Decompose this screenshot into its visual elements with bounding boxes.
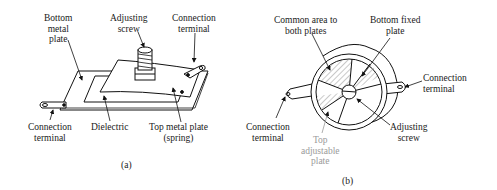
label-connection-terminal-right-b: Connection terminal [423,73,467,94]
label-line: plate [44,34,73,45]
label-adjusting-screw-a: Adjusting screw [110,13,147,34]
label-common-area: Common area to both plates [274,15,337,36]
label-line: terminal [423,84,467,95]
label-line: Adjusting [110,13,147,24]
label-line: metal [44,24,73,35]
label-line: Connection [172,13,216,24]
label-top-metal-plate: Top metal plate (spring) [149,122,208,143]
label-line: adjustable [301,146,340,157]
label-adjusting-screw-b: Adjusting screw [390,122,427,143]
label-dielectric: Dielectric [91,122,128,133]
label-line: screw [390,133,427,144]
label-line: (spring) [149,133,208,144]
label-line: Top metal plate [149,122,208,133]
label-line: Adjusting [390,122,427,133]
label-line: Connection [246,122,290,133]
label-line: Dielectric [91,122,128,133]
label-line: Bottom fixed [370,15,420,26]
label-line: Bottom [44,13,73,24]
label-connection-terminal-top-a: Connection terminal [172,13,216,34]
figure-b-rotary-capacitor [276,34,422,133]
label-line: plate [370,26,420,37]
terminal-left [287,84,312,99]
label-line: Connection [423,73,467,84]
figure-a-trimmer-capacitor [40,32,208,122]
label-line: Common area to [274,15,337,26]
label-line: terminal [28,133,72,144]
label-bottom-metal-plate: Bottom metal plate [44,13,73,45]
label-bottom-fixed-plate: Bottom fixed plate [370,15,420,36]
capacitor-diagrams [0,0,497,190]
label-line: screw [110,24,147,35]
label-top-adjustable-plate: Top adjustable plate [301,135,340,167]
label-line: terminal [246,133,290,144]
label-connection-terminal-left-a: Connection terminal [28,122,72,143]
label-connection-terminal-left-b: Connection terminal [246,122,290,143]
caption-a: (a) [121,160,132,170]
caption-b: (b) [342,176,353,186]
label-line: Connection [28,122,72,133]
label-line: both plates [274,26,337,37]
label-line: plate [301,156,340,167]
terminal-left [40,102,66,108]
label-line: Top [301,135,340,146]
label-line: terminal [172,24,216,35]
